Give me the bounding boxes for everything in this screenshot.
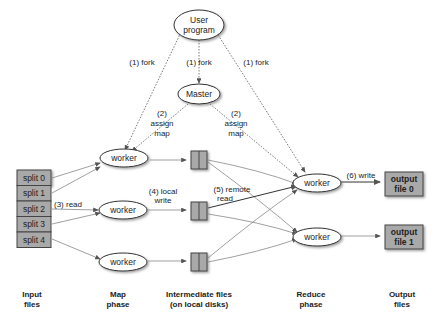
input-splits: split 0 split 1 split 2 split 3 split 4 bbox=[17, 170, 51, 248]
svg-text:output: output bbox=[391, 174, 418, 184]
intermediate-files bbox=[191, 151, 207, 271]
label-fork-left: (1) fork bbox=[129, 58, 155, 67]
label-write: (6) write bbox=[347, 171, 376, 180]
svg-text:file 1: file 1 bbox=[394, 237, 414, 247]
label-fork-mid: (1) fork bbox=[186, 58, 212, 67]
svg-text:split 2: split 2 bbox=[23, 204, 45, 214]
svg-text:phase: phase bbox=[299, 300, 323, 309]
svg-text:split 1: split 1 bbox=[23, 188, 45, 198]
mapreduce-diagram: User program Master split 0 split 1 spli… bbox=[0, 0, 448, 328]
svg-text:split 4: split 4 bbox=[23, 235, 45, 245]
reduce-worker-0: worker bbox=[293, 174, 341, 192]
svg-text:files: files bbox=[24, 300, 41, 309]
label-remote-read: (5) remote read bbox=[214, 185, 251, 203]
label-local-write: (4) local write bbox=[149, 187, 178, 205]
svg-text:phase: phase bbox=[106, 300, 130, 309]
svg-text:assign: assign bbox=[150, 119, 173, 128]
label-assign-map-right: (2) assign map bbox=[224, 109, 247, 138]
svg-text:Input: Input bbox=[22, 290, 42, 299]
svg-text:files: files bbox=[394, 300, 411, 309]
svg-text:Output: Output bbox=[389, 290, 416, 299]
svg-text:(2): (2) bbox=[157, 109, 167, 118]
map-worker-0: worker bbox=[100, 149, 148, 167]
map-worker-2: worker bbox=[99, 253, 147, 271]
phase-captions: Input files Map phase Intermediate files… bbox=[22, 290, 415, 309]
svg-text:Map: Map bbox=[110, 290, 126, 299]
svg-text:read: read bbox=[217, 194, 233, 203]
user-program-node: User program bbox=[174, 10, 224, 40]
svg-text:(on local disks): (on local disks) bbox=[170, 300, 229, 309]
svg-text:program: program bbox=[183, 25, 215, 35]
svg-text:worker: worker bbox=[110, 153, 137, 163]
reduce-worker-1: worker bbox=[293, 228, 341, 246]
svg-text:worker: worker bbox=[109, 257, 136, 267]
map-worker-1: worker bbox=[99, 201, 147, 219]
svg-text:file 0: file 0 bbox=[394, 184, 414, 194]
output-file-0: output file 0 bbox=[385, 172, 423, 196]
svg-text:Master: Master bbox=[186, 89, 212, 99]
svg-text:(5) remote: (5) remote bbox=[214, 185, 251, 194]
svg-text:(4) local: (4) local bbox=[149, 187, 178, 196]
svg-text:write: write bbox=[154, 196, 172, 205]
svg-text:worker: worker bbox=[303, 178, 330, 188]
svg-text:map: map bbox=[154, 129, 170, 138]
svg-text:assign: assign bbox=[224, 119, 247, 128]
master-node: Master bbox=[178, 84, 220, 104]
svg-text:worker: worker bbox=[109, 205, 136, 215]
label-fork-right: (1) fork bbox=[243, 58, 269, 67]
svg-text:worker: worker bbox=[303, 232, 330, 242]
svg-text:User: User bbox=[190, 15, 208, 25]
label-read: (3) read bbox=[54, 200, 82, 209]
svg-text:split 3: split 3 bbox=[23, 219, 45, 229]
svg-text:Reduce: Reduce bbox=[297, 290, 326, 299]
output-file-1: output file 1 bbox=[385, 225, 423, 249]
svg-text:output: output bbox=[391, 227, 418, 237]
svg-text:split 0: split 0 bbox=[23, 173, 45, 183]
svg-text:map: map bbox=[228, 129, 244, 138]
svg-text:Intermediate files: Intermediate files bbox=[166, 290, 232, 299]
label-assign-map-left: (2) assign map bbox=[150, 109, 173, 138]
svg-text:(2): (2) bbox=[231, 109, 241, 118]
